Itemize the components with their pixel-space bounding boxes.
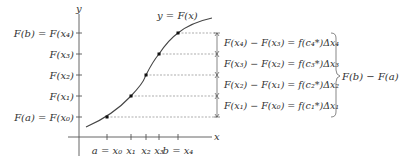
equation-2: F(x₂) − F(x₁) = f(c₂*)Δx₂ xyxy=(223,79,339,90)
curve-F xyxy=(86,18,212,127)
y-tick-label-x0: F(a) = F(x₀) xyxy=(13,112,74,123)
y-axis-label: y xyxy=(75,3,82,14)
mean-value-telescoping-diagram: y x F(b) = F(x₄) F(x₃) F(x₂) F(x₁) F(a) … xyxy=(0,0,407,164)
x-tick-label-x1: x₁ xyxy=(126,145,136,156)
y-tick-label-x3: F(x₃) xyxy=(49,49,74,60)
y-tick-label-x4: F(b) = F(x₄) xyxy=(13,28,74,39)
y-ticks: F(b) = F(x₄) F(x₃) F(x₂) F(x₁) F(a) = F(… xyxy=(13,28,82,123)
equation-1: F(x₁) − F(x₀) = f(c₁*)Δx₁ xyxy=(223,100,339,111)
y-tick-label-x1: F(x₁) xyxy=(49,91,74,102)
equation-3: F(x₃) − F(x₂) = f(c₃*)Δx₃ xyxy=(223,58,339,69)
equation-4: F(x₄) − F(x₃) = f(c₄*)Δx₄ xyxy=(223,37,339,48)
x-tick-label-x4: b = x₄ xyxy=(163,145,194,156)
y-tick-label-x2: F(x₂) xyxy=(49,70,74,81)
difference-equations: F(x₄) − F(x₃) = f(c₄*)Δx₄ F(x₃) − F(x₂) … xyxy=(223,37,339,111)
x-tick-label-x0: a = x₀ xyxy=(92,145,122,156)
x-axis-label: x xyxy=(214,131,220,142)
brace-label: F(b) − F(a) xyxy=(341,71,399,82)
dashed-guides xyxy=(107,33,217,117)
curve-label: y = F(x) xyxy=(156,10,198,21)
x-tick-label-x2: x₂ xyxy=(141,145,151,156)
measurement-arrows xyxy=(214,33,220,117)
